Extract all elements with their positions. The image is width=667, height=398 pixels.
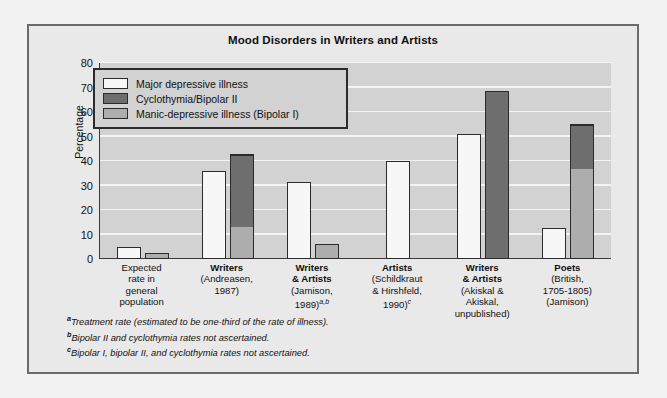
legend-item[interactable]: Manic-depressive illness (Bipolar I) xyxy=(103,106,339,121)
bar-major-depressive[interactable] xyxy=(542,228,566,259)
bar-segment-cyclothymia xyxy=(231,155,253,227)
bar-segment-manic-depressive xyxy=(571,169,593,258)
bar-stacked-bipolar[interactable] xyxy=(230,154,254,259)
bar-segment-manic-depressive xyxy=(146,254,168,258)
legend-swatch-icon xyxy=(103,108,128,119)
bar-segment-major-depressive xyxy=(203,172,225,258)
bar-stacked-bipolar[interactable] xyxy=(570,124,594,259)
x-category-label: Expectedrate ingeneralpopulation xyxy=(99,262,184,308)
bar-segment-major-depressive xyxy=(118,248,140,258)
y-tick-label-30: 30 xyxy=(59,180,93,192)
x-category-label: Writers& Artists(Jamison,1989)a,b xyxy=(269,262,354,311)
x-category-label: Writers& Artists(Akiskal &Akiskal,unpubl… xyxy=(440,262,525,319)
footnote: cBipolar I, bipolar II, and cyclothymia … xyxy=(67,344,567,360)
bar-group xyxy=(526,63,611,259)
footnote: bBipolar II and cyclothymia rates not as… xyxy=(67,329,567,345)
y-axis-ticks: 01020304050607080 xyxy=(55,63,93,259)
bar-stacked-bipolar[interactable] xyxy=(145,253,169,259)
y-tick-label-50: 50 xyxy=(59,131,93,143)
x-category-label: Writers(Andreasen,1987) xyxy=(184,262,269,296)
chart-title: Mood Disorders in Writers and Artists xyxy=(29,34,637,46)
bar-stacked-bipolar[interactable] xyxy=(315,244,339,259)
legend-item-label: Cyclothymia/Bipolar II xyxy=(136,93,238,105)
bar-segment-cyclothymia xyxy=(486,92,508,258)
y-tick-label-80: 80 xyxy=(59,57,93,69)
chart-legend: Major depressive illnessCyclothymia/Bipo… xyxy=(93,68,348,129)
bar-major-depressive[interactable] xyxy=(287,182,311,259)
bar-major-depressive[interactable] xyxy=(386,161,410,259)
footnote: aTreatment rate (estimated to be one-thi… xyxy=(67,313,567,329)
legend-item[interactable]: Cyclothymia/Bipolar II xyxy=(103,91,339,106)
legend-swatch-icon xyxy=(103,93,128,104)
bar-segment-major-depressive xyxy=(387,162,409,258)
bar-major-depressive[interactable] xyxy=(117,247,141,259)
bar-stacked-bipolar[interactable] xyxy=(485,91,509,259)
x-category-label: Poets(British,1705-1805)(Jamison) xyxy=(525,262,610,308)
bar-group xyxy=(356,63,441,259)
bar-major-depressive[interactable] xyxy=(457,134,481,259)
y-tick-label-70: 70 xyxy=(59,82,93,94)
bar-segment-manic-depressive xyxy=(316,245,338,258)
bar-segment-cyclothymia xyxy=(571,125,593,168)
y-tick-label-20: 20 xyxy=(59,204,93,216)
figure-frame: Mood Disorders in Writers and Artists Pe… xyxy=(27,24,639,374)
legend-swatch-icon xyxy=(103,78,128,89)
x-category-label: Artists(Schildkraut& Hirshfeld,1990)c xyxy=(355,262,440,311)
y-tick-label-0: 0 xyxy=(59,253,93,265)
y-tick-label-60: 60 xyxy=(59,106,93,118)
y-tick-label-10: 10 xyxy=(59,229,93,241)
legend-item-label: Major depressive illness xyxy=(136,78,248,90)
bar-major-depressive[interactable] xyxy=(202,171,226,259)
legend-item-label: Manic-depressive illness (Bipolar I) xyxy=(136,108,299,120)
footnotes: aTreatment rate (estimated to be one-thi… xyxy=(67,313,567,360)
y-tick-label-40: 40 xyxy=(59,155,93,167)
bar-segment-major-depressive xyxy=(458,135,480,258)
legend-item[interactable]: Major depressive illness xyxy=(103,76,339,91)
bar-segment-manic-depressive xyxy=(231,227,253,258)
bar-group xyxy=(441,63,526,259)
bar-segment-major-depressive xyxy=(543,229,565,258)
bar-segment-major-depressive xyxy=(288,183,310,258)
